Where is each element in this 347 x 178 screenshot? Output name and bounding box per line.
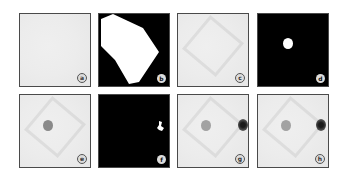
diamond-outline bbox=[24, 96, 86, 158]
panel-label-e: e bbox=[77, 154, 87, 164]
dark-spot bbox=[316, 119, 326, 131]
mask-blob bbox=[283, 38, 293, 49]
panel-label-b: b bbox=[157, 74, 166, 83]
panel-label-c: c bbox=[235, 73, 245, 83]
panel-label-f: f bbox=[157, 155, 166, 164]
panel-e: e bbox=[19, 94, 91, 168]
panel-b: b bbox=[98, 13, 170, 87]
diamond-outline bbox=[262, 96, 324, 158]
gray-spot bbox=[281, 120, 291, 131]
dark-spot bbox=[238, 119, 248, 131]
panel-h: h bbox=[257, 94, 329, 168]
panel-c: c bbox=[177, 13, 249, 87]
diamond-outline bbox=[182, 15, 244, 77]
panel-f: f bbox=[98, 94, 170, 168]
panel-a: a bbox=[19, 13, 91, 87]
dark-spot bbox=[43, 120, 53, 131]
diamond-outline bbox=[182, 96, 244, 158]
panel-label-h: h bbox=[315, 154, 325, 164]
panel-label-a: a bbox=[77, 73, 87, 83]
gray-spot bbox=[201, 120, 211, 131]
panel-label-d: d bbox=[316, 74, 325, 83]
panel-d: d bbox=[257, 13, 329, 87]
panel-label-g: g bbox=[235, 154, 245, 164]
panel-g: g bbox=[177, 94, 249, 168]
